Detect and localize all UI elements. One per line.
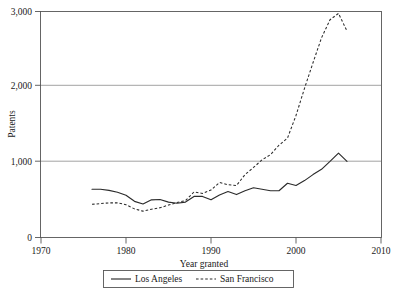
legend-label-san-francisco: San Francisco bbox=[220, 274, 274, 284]
x-tick-label-1990: 1990 bbox=[202, 246, 221, 256]
x-tick-label-2010: 2010 bbox=[372, 246, 391, 256]
chart-canvas: 3,000 2,000 1,000 0 Patents 1970 1980 19… bbox=[0, 0, 397, 291]
y-tick-label-0: 0 bbox=[27, 233, 32, 243]
y-tick-label-3000: 3,000 bbox=[11, 7, 33, 17]
plot-frame bbox=[41, 12, 382, 238]
y-tick-label-1000: 1,000 bbox=[11, 157, 33, 167]
y-axis-title: Patents bbox=[7, 110, 17, 138]
chart-legend: Los Angeles San Francisco bbox=[104, 271, 294, 288]
series-line-los-angeles bbox=[92, 153, 347, 204]
x-axis-tick-labels: 1970 1980 1990 2000 2010 bbox=[32, 246, 391, 256]
x-axis-title: Year granted bbox=[180, 259, 229, 269]
patents-line-chart-figure: 3,000 2,000 1,000 0 Patents 1970 1980 19… bbox=[0, 0, 397, 291]
x-axis-ticks bbox=[41, 238, 381, 244]
x-tick-label-1980: 1980 bbox=[117, 246, 136, 256]
x-tick-label-1970: 1970 bbox=[32, 246, 51, 256]
y-tick-label-2000: 2,000 bbox=[11, 81, 33, 91]
x-tick-label-2000: 2000 bbox=[287, 246, 306, 256]
grid-lines bbox=[41, 85, 381, 161]
series-line-san-francisco bbox=[92, 13, 347, 211]
legend-label-los-angeles: Los Angeles bbox=[135, 274, 183, 284]
